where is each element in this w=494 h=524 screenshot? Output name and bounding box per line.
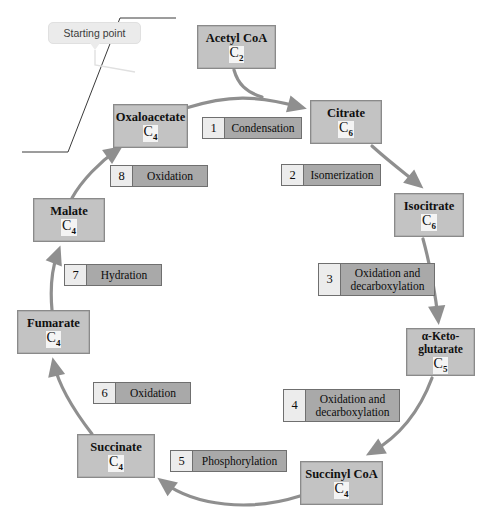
step-box-1-condensation[interactable]: 1 Condensation (202, 117, 302, 139)
carbon-count: C4 (46, 331, 62, 348)
step-number: 6 (94, 383, 116, 403)
carbon-count: C4 (143, 125, 159, 142)
molecule-box-fumarate[interactable]: Fumarate C4 (17, 310, 90, 354)
step-label: Oxidation (116, 383, 190, 403)
krebs-cycle-diagram: Starting point Acetyl CoA C2 Oxaloacetat… (0, 0, 494, 524)
step-box-6-oxidation[interactable]: 6 Oxidation (93, 382, 191, 404)
starting-point-callout-tail (90, 43, 100, 50)
step-number: 2 (282, 165, 304, 185)
step-label: Hydration (87, 265, 161, 285)
molecule-name: Malate (50, 204, 87, 218)
callout-leader-line (95, 50, 135, 72)
step-box-4-oxidation-decarboxylation[interactable]: 4 Oxidation and decarboxylation (283, 389, 400, 422)
arrow-succinate-to-fumarate (54, 364, 92, 434)
molecule-box-succinate[interactable]: Succinate C4 (77, 434, 155, 478)
step-box-8-oxidation[interactable]: 8 Oxidation (110, 165, 208, 187)
molecule-name: Isocitrate (404, 199, 455, 213)
molecule-name: Succinate (90, 440, 141, 454)
step-number: 4 (284, 390, 306, 421)
molecule-box-acetyl-coa[interactable]: Acetyl CoA C2 (197, 25, 276, 69)
arrow-fumarate-to-malate (51, 252, 58, 310)
carbon-count: C4 (61, 219, 77, 236)
carbon-count: C6 (338, 121, 354, 138)
step-number: 1 (203, 118, 225, 138)
molecule-name: Citrate (327, 106, 365, 120)
step-label: Oxidation and decarboxylation (341, 264, 434, 295)
step-label: Phosphorylation (193, 451, 286, 471)
carbon-count: C6 (421, 214, 437, 231)
molecule-box-oxaloacetate[interactable]: Oxaloacetate C4 (113, 104, 188, 148)
step-number: 3 (319, 264, 341, 295)
arrow-oxaloacetate-to-citrate (186, 98, 300, 108)
step-number: 7 (65, 265, 87, 285)
step-label: Isomerization (304, 165, 380, 185)
arrow-succinylcoa-to-succinate (163, 482, 300, 505)
carbon-count: C5 (433, 357, 449, 374)
step-box-5-phosphorylation[interactable]: 5 Phosphorylation (170, 450, 287, 472)
molecule-box-malate[interactable]: Malate C4 (33, 198, 105, 242)
step-label: Oxidation (133, 166, 207, 186)
step-box-2-isomerization[interactable]: 2 Isomerization (281, 164, 381, 186)
molecule-box-alpha-ketoglutarate[interactable]: α-Keto- glutarate C5 (406, 328, 475, 376)
arrow-acetylcoa-to-citrate (234, 70, 262, 97)
connector-layer (0, 0, 494, 524)
step-label: Oxidation and decarboxylation (306, 390, 399, 421)
step-number: 5 (171, 451, 193, 471)
molecule-box-citrate[interactable]: Citrate C6 (310, 100, 382, 144)
carbon-count: C4 (334, 482, 350, 499)
step-box-7-hydration[interactable]: 7 Hydration (64, 264, 162, 286)
carbon-count: C2 (229, 46, 245, 63)
step-label: Condensation (225, 118, 301, 138)
molecule-name: α-Keto- glutarate (418, 330, 463, 356)
molecule-name: Fumarate (27, 316, 80, 330)
molecule-name: Succinyl CoA (305, 467, 378, 481)
molecule-box-succinyl-coa[interactable]: Succinyl CoA C4 (300, 461, 383, 505)
molecule-box-isocitrate[interactable]: Isocitrate C6 (394, 193, 464, 237)
molecule-name: Oxaloacetate (116, 110, 185, 124)
starting-point-label: Starting point (64, 27, 126, 39)
carbon-count: C4 (108, 455, 124, 472)
step-box-3-oxidation-decarboxylation[interactable]: 3 Oxidation and decarboxylation (318, 263, 435, 296)
step-number: 8 (111, 166, 133, 186)
molecule-name: Acetyl CoA (206, 31, 267, 45)
starting-point-callout: Starting point (48, 22, 141, 44)
